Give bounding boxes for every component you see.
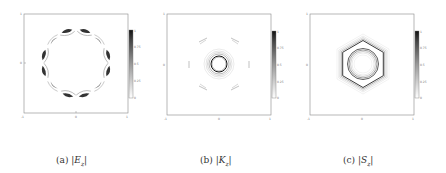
- svg-text:1: 1: [134, 29, 136, 33]
- svg-text:0: 0: [20, 61, 22, 65]
- caption-a: (a) |Ez|: [56, 155, 87, 167]
- caption-b: (b) |Kz|: [200, 155, 232, 167]
- panel-a: 1 0 -1 0 1: [0, 0, 146, 130]
- panel-c: 1 0 -1 0 1 1 0.75 0.5 0.25 0 (c) |Sz|: [286, 0, 432, 130]
- caption-subscript: z: [367, 160, 370, 167]
- caption-c: (c) |Sz|: [343, 155, 373, 167]
- svg-text:1: 1: [126, 115, 128, 119]
- svg-text:0.25: 0.25: [134, 79, 141, 83]
- svg-text:1: 1: [420, 30, 422, 34]
- svg-text:0: 0: [134, 96, 136, 100]
- colorbar: [415, 31, 419, 98]
- svg-text:0: 0: [163, 63, 165, 67]
- svg-text:0: 0: [277, 96, 279, 100]
- caption-subscript: z: [81, 160, 84, 167]
- caption-subscript: z: [225, 160, 228, 167]
- svg-text:0.25: 0.25: [420, 80, 427, 84]
- colorbar: [272, 31, 276, 98]
- caption-label: (b): [200, 155, 213, 165]
- heatmap-ez: 1 0 -1 0 1: [0, 0, 146, 130]
- svg-text:0: 0: [75, 115, 77, 119]
- svg-text:-1: -1: [21, 115, 24, 119]
- colorbar: [129, 30, 133, 98]
- svg-text:-1: -1: [164, 117, 167, 121]
- panel-b: 1 0 -1 0 1 1 0.75 0.5 0.25 0: [143, 0, 289, 130]
- svg-text:0: 0: [306, 63, 308, 67]
- svg-text:0.75: 0.75: [277, 46, 284, 50]
- caption-label: (c): [343, 155, 355, 165]
- svg-text:0.75: 0.75: [420, 46, 427, 50]
- svg-text:1: 1: [163, 12, 165, 16]
- heatmap-sz: 1 0 -1 0 1 1 0.75 0.5 0.25 0: [286, 0, 432, 130]
- svg-text:1: 1: [277, 30, 279, 34]
- svg-text:1: 1: [269, 117, 271, 121]
- svg-text:0.25: 0.25: [277, 80, 284, 84]
- svg-text:0: 0: [420, 96, 422, 100]
- svg-text:0.75: 0.75: [134, 45, 141, 49]
- svg-text:0.5: 0.5: [420, 63, 425, 67]
- svg-text:0: 0: [218, 117, 220, 121]
- svg-text:0.5: 0.5: [277, 63, 282, 67]
- heatmap-kz: 1 0 -1 0 1 1 0.75 0.5 0.25 0: [143, 0, 289, 130]
- svg-text:0.5: 0.5: [134, 62, 139, 66]
- svg-text:1: 1: [306, 12, 308, 16]
- caption-label: (a): [56, 155, 68, 165]
- svg-text:1: 1: [20, 12, 22, 16]
- svg-text:-1: -1: [307, 117, 310, 121]
- svg-text:0: 0: [361, 117, 363, 121]
- svg-text:1: 1: [412, 117, 414, 121]
